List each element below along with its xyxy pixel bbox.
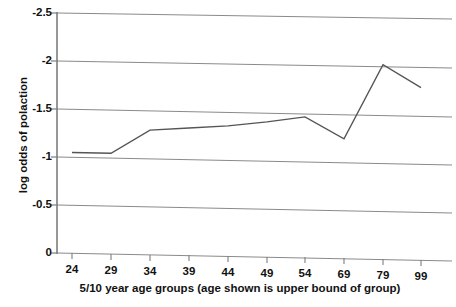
x-tick-label: 99: [415, 270, 428, 282]
x-tick-label: 44: [222, 266, 235, 278]
x-axis-tick-labels: 24 29 34 39 44 49 54 69 79 99: [0, 0, 456, 307]
x-tick-label: 79: [377, 269, 390, 281]
x-tick-label: 54: [299, 267, 312, 279]
y-axis-title: log odds of polaction: [12, 15, 34, 255]
x-tick-label: 39: [183, 265, 196, 277]
x-axis-title: 5/10 year age groups (age shown is upper…: [40, 282, 440, 294]
x-tick-label: 29: [105, 264, 118, 276]
x-tick-label: 49: [261, 267, 274, 279]
chart-container: -2.5 -2 -1.5 -1 -0.5 0 24 29 34 39 44 49…: [0, 0, 456, 307]
x-tick-label: 69: [338, 268, 351, 280]
x-tick-label: 34: [144, 265, 157, 277]
x-tick-label: 24: [66, 263, 79, 275]
